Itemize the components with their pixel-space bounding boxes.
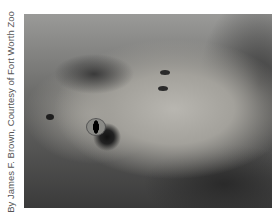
head-spot (158, 86, 168, 91)
head-spot (160, 70, 170, 75)
photo-credit: By James F. Brown, Courtesy of Fort Wort… (0, 0, 20, 224)
snake-photo (24, 14, 272, 208)
photo-credit-text: By James F. Brown, Courtesy of Fort Wort… (5, 11, 16, 213)
snake-eye (86, 118, 106, 136)
snake-nostril (46, 114, 54, 120)
